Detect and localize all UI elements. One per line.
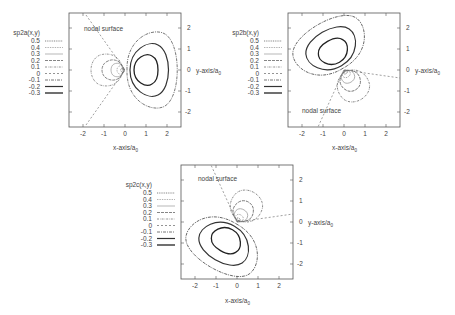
svg-text:-2: -2 <box>192 282 198 289</box>
svg-text:-2: -2 <box>185 108 191 115</box>
svg-text:2: 2 <box>406 24 410 31</box>
plot-sp2b: sp2b(x,y) 0.5 0.4 0.3 0.2 0.1 0 -0.1 -0.… <box>219 0 455 160</box>
y-tick-labels: 2 1 0 -1 -2 <box>404 24 410 115</box>
svg-text:-1: -1 <box>213 282 219 289</box>
legend-title: sp2a(x,y) <box>13 29 40 37</box>
x-tick-labels: -2 -1 0 1 2 <box>192 282 281 289</box>
svg-text:-2: -2 <box>297 260 303 267</box>
svg-text:1: 1 <box>256 282 260 289</box>
contours-sp2c <box>178 165 293 286</box>
plot-sp2c: sp2c(x,y) 0.5 0.4 0.3 0.2 0.1 0 -0.1 -0.… <box>112 152 352 315</box>
svg-text:0: 0 <box>235 282 239 289</box>
nodal-surface-label: nodal surface <box>84 25 123 32</box>
nodal-surface-label: nodal surface <box>198 175 237 182</box>
svg-text:-0.3: -0.3 <box>248 89 260 96</box>
svg-text:2: 2 <box>299 176 303 183</box>
svg-text:-1: -1 <box>185 87 191 94</box>
svg-text:1: 1 <box>406 45 410 52</box>
svg-text:1: 1 <box>299 197 303 204</box>
svg-text:0: 0 <box>123 130 127 137</box>
svg-text:1: 1 <box>363 130 367 137</box>
x-tick-labels: -2 -1 0 1 2 <box>80 130 169 137</box>
svg-text:0: 0 <box>299 218 303 225</box>
svg-text:2: 2 <box>384 130 388 137</box>
legend-title: sp2b(x,y) <box>232 29 259 37</box>
legend-title: sp2c(x,y) <box>126 181 152 189</box>
y-axis-label: y-axis/a0 <box>415 67 440 76</box>
svg-text:-1: -1 <box>101 130 107 137</box>
y-axis-label: y-axis/a0 <box>308 219 333 228</box>
svg-text:2: 2 <box>165 130 169 137</box>
y-tick-labels: 2 1 0 -1 -2 <box>185 24 191 115</box>
svg-text:2: 2 <box>277 282 281 289</box>
svg-text:-2: -2 <box>299 130 305 137</box>
y-tick-labels: 2 1 0 -1 -2 <box>297 176 303 267</box>
svg-text:-1: -1 <box>404 87 410 94</box>
svg-text:-2: -2 <box>404 108 410 115</box>
svg-text:0: 0 <box>406 66 410 73</box>
svg-text:-1: -1 <box>297 239 303 246</box>
legend-sp2a: sp2a(x,y) 0.5 0.4 0.3 0.2 0.1 0 -0.1 -0.… <box>13 29 63 96</box>
svg-text:-2: -2 <box>80 130 86 137</box>
svg-text:1: 1 <box>187 45 191 52</box>
svg-text:0: 0 <box>342 130 346 137</box>
svg-text:-1: -1 <box>320 130 326 137</box>
svg-text:-0.3: -0.3 <box>141 241 153 248</box>
legend-sp2b: sp2b(x,y) 0.5 0.4 0.3 0.2 0.1 0 -0.1 -0.… <box>232 29 282 96</box>
svg-text:0: 0 <box>187 66 191 73</box>
svg-text:1: 1 <box>144 130 148 137</box>
plot-sp2a: sp2a(x,y) 0.5 0.4 0.3 0.2 0.1 0 -0.1 -0.… <box>0 0 230 160</box>
svg-text:2: 2 <box>187 24 191 31</box>
y-axis-label: y-axis/a0 <box>196 67 221 76</box>
legend-sp2c: sp2c(x,y) 0.5 0.4 0.3 0.2 0.1 0 -0.1 -0.… <box>126 181 175 248</box>
nodal-surface-label: nodal surface <box>302 107 341 114</box>
svg-text:-0.3: -0.3 <box>29 89 41 96</box>
x-tick-labels: -2 -1 0 1 2 <box>299 130 388 137</box>
x-axis-label: x-axis/a0 <box>225 297 250 306</box>
